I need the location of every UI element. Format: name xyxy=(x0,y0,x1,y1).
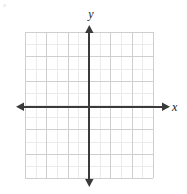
x-axis-arrow-left xyxy=(16,103,24,111)
x-axis-arrow-right xyxy=(162,103,170,111)
x-axis xyxy=(16,103,170,111)
coordinate-plane-figure xyxy=(0,0,187,194)
y-axis-arrow-up xyxy=(85,25,93,33)
x-axis-label: x xyxy=(172,101,184,113)
corner-artifact-mark: x xyxy=(3,2,11,9)
y-axis-label: y xyxy=(85,8,97,20)
y-axis-arrow-down xyxy=(85,179,93,187)
